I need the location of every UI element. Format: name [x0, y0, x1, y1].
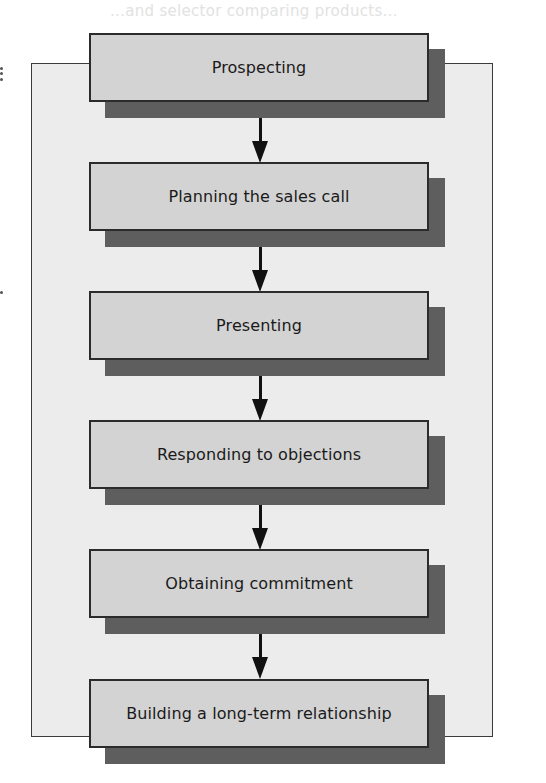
step-box: Prospecting [89, 33, 429, 102]
step-presenting: Presenting [89, 291, 429, 360]
step-label: Obtaining commitment [165, 574, 353, 593]
arrow-head-icon [252, 399, 268, 421]
step-box: Presenting [89, 291, 429, 360]
step-label: Presenting [216, 316, 302, 335]
step-planning-the-sales-call: Planning the sales call [89, 162, 429, 231]
step-box: Responding to objections [89, 420, 429, 489]
step-prospecting: Prospecting [89, 33, 429, 102]
step-label: Building a long-term relationship [126, 704, 392, 723]
step-label: Planning the sales call [169, 187, 350, 206]
arrow-head-icon [252, 270, 268, 292]
margin-mark [0, 67, 3, 70]
step-label: Prospecting [212, 58, 307, 77]
arrow-head-icon [252, 141, 268, 163]
step-box: Obtaining commitment [89, 549, 429, 618]
step-obtaining-commitment: Obtaining commitment [89, 549, 429, 618]
faded-background-text: ...and selector comparing products... [110, 2, 510, 22]
step-box: Planning the sales call [89, 162, 429, 231]
margin-mark [0, 78, 3, 81]
step-label: Responding to objections [157, 445, 361, 464]
step-responding-to-objections: Responding to objections [89, 420, 429, 489]
margin-marks [0, 0, 6, 783]
margin-mark [0, 72, 3, 75]
margin-mark [0, 291, 3, 294]
step-box: Building a long-term relationship [89, 679, 429, 748]
step-building-long-term-relationship: Building a long-term relationship [89, 679, 429, 748]
arrow-head-icon [252, 657, 268, 679]
arrow-head-icon [252, 528, 268, 550]
